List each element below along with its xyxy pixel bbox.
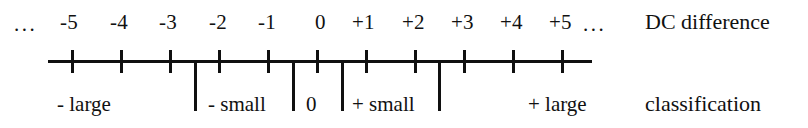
trailing-ellipsis: ... <box>583 14 606 35</box>
dc-difference-classification-figure: ... -5 -4 -3 -2 -1 0 +1 +2 +3 +4 +5 ... … <box>0 0 808 128</box>
axis-tick-0 <box>316 50 319 73</box>
dc-difference-caption: DC difference <box>645 11 770 33</box>
tick-label--5: -5 <box>60 12 78 33</box>
number-line-axis <box>48 60 592 63</box>
axis-tick-+1 <box>365 50 368 73</box>
band-divider-2 <box>292 63 295 111</box>
tick-label--2: -2 <box>209 12 227 33</box>
tick-label-+3: +3 <box>451 12 474 33</box>
band-divider-4 <box>438 63 441 111</box>
band-divider-3 <box>341 63 344 111</box>
band-label-plus-small: + small <box>352 94 415 115</box>
axis-tick--5 <box>71 50 74 73</box>
axis-tick-+4 <box>512 50 515 73</box>
tick-label-+4: +4 <box>500 12 523 33</box>
tick-label-+5: +5 <box>549 12 572 33</box>
axis-tick--3 <box>169 50 172 73</box>
axis-tick-+5 <box>561 50 564 73</box>
tick-label-+1: +1 <box>352 12 375 33</box>
band-label-plus-large: + large <box>528 94 587 115</box>
axis-tick-+2 <box>414 50 417 73</box>
leading-ellipsis: ... <box>14 14 37 35</box>
band-label-minus-small: - small <box>208 94 266 115</box>
tick-label--3: -3 <box>159 12 177 33</box>
classification-caption: classification <box>645 93 761 115</box>
axis-tick--1 <box>267 50 270 73</box>
tick-label--1: -1 <box>258 12 276 33</box>
tick-label--4: -4 <box>110 12 128 33</box>
band-label-zero: 0 <box>306 94 317 115</box>
axis-tick--4 <box>120 50 123 73</box>
tick-label-0: 0 <box>315 12 326 33</box>
tick-label-+2: +2 <box>402 12 425 33</box>
band-divider-1 <box>194 63 197 111</box>
axis-tick-+3 <box>463 50 466 73</box>
axis-tick--2 <box>218 50 221 73</box>
band-label-minus-large: - large <box>57 94 111 115</box>
